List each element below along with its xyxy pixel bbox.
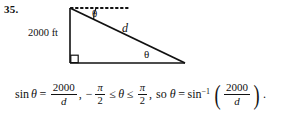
fraction-denominator: d bbox=[51, 94, 77, 107]
fraction-2000-over-d-2: 2000 d bbox=[224, 82, 250, 107]
angle-label-bottom: θ bbox=[144, 48, 149, 60]
so-word: so bbox=[155, 87, 170, 102]
less-equal-sign-1: ≤ bbox=[107, 87, 119, 102]
equals-sign-1: = bbox=[37, 87, 49, 102]
fraction-numerator: π bbox=[95, 83, 104, 94]
minus-sign: − bbox=[85, 87, 94, 102]
arcsin-function: sin bbox=[187, 87, 201, 102]
fraction-denominator: d bbox=[224, 94, 250, 107]
period: . bbox=[261, 87, 266, 102]
right-angle-marker-icon bbox=[71, 55, 78, 62]
hypotenuse-label: d bbox=[122, 21, 128, 36]
figure-and-solution-page: 35. 2000 ft d θ θ sin θ = 2000 bbox=[0, 0, 281, 113]
sin-function: sin bbox=[15, 87, 29, 102]
triangle-figure: 2000 ft d θ θ bbox=[0, 0, 281, 72]
fraction-pi-over-2-left: π 2 bbox=[95, 83, 104, 107]
solution-equation: sin θ = 2000 d , − π 2 ≤ θ ≤ π 2 , so θ bbox=[0, 76, 281, 113]
equals-sign-2: = bbox=[176, 87, 188, 102]
fraction-numerator: 2000 bbox=[51, 82, 77, 94]
fraction-numerator: π bbox=[138, 83, 147, 94]
fraction-denominator: 2 bbox=[95, 94, 104, 106]
angle-label-top: θ bbox=[92, 7, 97, 19]
less-equal-sign-2: ≤ bbox=[124, 87, 136, 102]
open-paren: ( bbox=[214, 87, 220, 104]
fraction-denominator: 2 bbox=[138, 94, 147, 106]
fraction-pi-over-2-right: π 2 bbox=[138, 83, 147, 107]
close-paren: ) bbox=[253, 87, 259, 104]
theta-symbol-1: θ bbox=[29, 87, 37, 102]
height-label: 2000 ft bbox=[28, 27, 58, 38]
equation-row: sin θ = 2000 d , − π 2 ≤ θ ≤ π 2 , so θ bbox=[15, 82, 266, 107]
fraction-2000-over-d: 2000 d bbox=[51, 82, 77, 107]
fraction-numerator: 2000 bbox=[224, 82, 250, 94]
